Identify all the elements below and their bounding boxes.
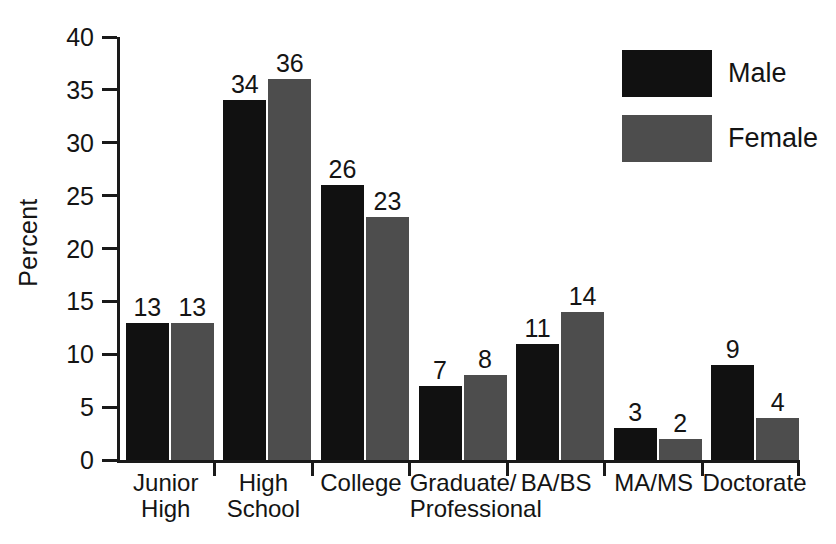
- x-axis-category-label: JuniorHigh: [117, 470, 215, 522]
- bar-male: 34: [223, 100, 266, 460]
- bar-female: 2: [659, 439, 702, 460]
- y-axis-tick: 30: [102, 141, 117, 144]
- bar-value-label: 13: [133, 295, 161, 320]
- y-axis-tick-label: 10: [66, 342, 94, 367]
- x-axis-category-label: College: [312, 470, 410, 496]
- bar-value-label: 36: [276, 51, 304, 76]
- bar-male: 11: [516, 344, 559, 460]
- legend-label-female: Female: [728, 125, 818, 152]
- bar-value-label: 3: [628, 400, 642, 425]
- y-axis-tick: 5: [102, 406, 117, 409]
- y-axis-line: [117, 37, 120, 463]
- bar-value-label: 14: [569, 284, 597, 309]
- plot-area: 0510152025303540 1313343626237811143294: [117, 37, 800, 463]
- y-axis-tick: 10: [102, 353, 117, 356]
- y-axis-tick-label: 20: [66, 236, 94, 261]
- bar-value-label: 8: [478, 347, 492, 372]
- bar-value-label: 23: [374, 189, 402, 214]
- y-axis-tick-label: 35: [66, 77, 94, 102]
- y-axis-tick: 35: [102, 88, 117, 91]
- y-axis-tick-label: 5: [80, 395, 94, 420]
- y-axis-title: Percent: [14, 163, 43, 323]
- bar-male: 9: [711, 365, 754, 460]
- x-axis-category-label: Graduate/Professional: [410, 470, 508, 522]
- y-axis-tick-label: 40: [66, 25, 94, 50]
- bar-value-label: 26: [329, 157, 357, 182]
- y-axis-tick: 40: [102, 36, 117, 39]
- y-axis-tick-label: 30: [66, 130, 94, 155]
- bar-male: 3: [614, 428, 657, 460]
- x-axis-category-label: Doctorate: [702, 470, 800, 496]
- y-axis-tick-label: 15: [66, 289, 94, 314]
- legend-swatch-female: [622, 115, 712, 162]
- bar-male: 26: [321, 185, 364, 460]
- x-axis-category-label: BA/BS: [507, 470, 605, 496]
- bar-female: 36: [268, 79, 311, 460]
- x-axis-category-label: MA/MS: [605, 470, 703, 496]
- y-axis-tick: 0: [102, 459, 117, 462]
- bar-female: 23: [366, 217, 409, 460]
- legend-label-male: Male: [728, 60, 787, 87]
- bar-male: 13: [126, 323, 169, 460]
- legend-swatch-male: [622, 50, 712, 97]
- x-axis-category-label: HighSchool: [215, 470, 313, 522]
- y-axis-tick-label: 0: [80, 448, 94, 473]
- y-axis-tick: 20: [102, 247, 117, 250]
- bar-value-label: 2: [673, 411, 687, 436]
- bar-value-label: 4: [771, 390, 785, 415]
- bar-chart: Percent 0510152025303540 131334362623781…: [0, 0, 836, 544]
- bar-female: 4: [756, 418, 799, 460]
- y-axis-tick-label: 25: [66, 183, 94, 208]
- y-axis-tick: 25: [102, 194, 117, 197]
- bar-female: 13: [171, 323, 214, 460]
- bar-female: 14: [561, 312, 604, 460]
- bar-value-label: 7: [433, 358, 447, 383]
- x-axis-line: [117, 460, 800, 463]
- bar-value-label: 11: [525, 316, 551, 341]
- bar-value-label: 34: [231, 72, 259, 97]
- bar-female: 8: [464, 375, 507, 460]
- y-axis-tick: 15: [102, 300, 117, 303]
- bar-value-label: 13: [178, 295, 206, 320]
- bar-value-label: 9: [726, 337, 740, 362]
- bar-male: 7: [419, 386, 462, 460]
